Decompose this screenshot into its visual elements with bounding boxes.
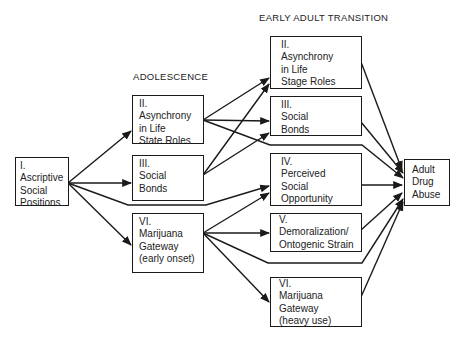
node-line: Ontogenic Strain (279, 239, 361, 251)
node-line: Drug (412, 176, 449, 188)
edge-ea-social-bonds-to-adult (361, 122, 403, 173)
edge-adol-asynchrony-to-ea-asynchrony (203, 78, 269, 120)
node-line: III. (139, 158, 203, 170)
node-ea-social-bonds: III. Social Bonds (270, 96, 362, 136)
node-ea-perceived-opportunity: IV. Perceived Social Opportunity (270, 153, 362, 206)
node-line: Bonds (139, 183, 203, 195)
node-line: I. (20, 160, 68, 172)
node-line: (early onset) (139, 253, 203, 265)
node-line: Gateway (139, 241, 203, 253)
node-ea-marijuana-gateway: VI. Marijuana Gateway (heavy use) (270, 277, 362, 327)
node-line: Social (139, 170, 203, 182)
edge-adol-marijuana-to-ea-perceived-opportunity (203, 193, 269, 233)
node-line: State Roles (139, 135, 203, 147)
node-line: III. (281, 99, 361, 111)
node-line: VI. (279, 278, 361, 290)
node-line: Asynchrony (139, 110, 203, 122)
edge-adol-asynchrony-to-ea-social-bonds (203, 120, 269, 121)
path-diagram: EARLY ADULT TRANSITION ADOLESCENCE I. As… (0, 0, 464, 341)
node-line: in Life (139, 123, 203, 135)
node-line: (heavy use) (279, 315, 361, 327)
node-line: Abuse (412, 189, 449, 201)
stage-label-adolescence: ADOLESCENCE (133, 71, 208, 82)
node-adol-social-bonds: III. Social Bonds (132, 155, 204, 201)
edge-adol-marijuana-to-ea-marijuana (203, 233, 269, 302)
edge-ascriptive-to-adol-asynchrony (68, 131, 131, 183)
node-line: Social (281, 111, 361, 123)
node-line: Marijuana (279, 290, 361, 302)
edge-ascriptive-to-adol-marijuana (68, 183, 131, 245)
node-ea-asynchrony: II. Asynchrony in Life Stage Roles (270, 36, 362, 89)
node-line: Stage Roles (281, 76, 361, 88)
edge-ea-demoralization-to-adult (361, 193, 402, 230)
node-line: Opportunity (281, 193, 361, 205)
node-line: II. (139, 98, 203, 110)
node-line: Demoralization/ (279, 226, 361, 238)
edges-layer (0, 0, 464, 341)
node-line: Adult (412, 164, 449, 176)
node-line: Gateway (279, 303, 361, 315)
node-line: Bonds (281, 124, 361, 136)
edge-ea-marijuana-to-adult (361, 202, 403, 297)
node-line: Marijuana (139, 228, 203, 240)
node-line: in Life (281, 64, 361, 76)
node-line: Perceived (281, 168, 361, 180)
node-line: Social (20, 185, 68, 197)
edge-adol-social-bonds-to-ea-asynchrony (203, 84, 269, 175)
node-ascriptive-social-positions: I. Ascriptive Social Positions (15, 157, 69, 206)
node-line: V. (279, 214, 361, 226)
edge-adol-social-bonds-to-ea-social-bonds (203, 133, 269, 175)
node-line: VI. (139, 216, 203, 228)
node-line: Asynchrony (281, 51, 361, 63)
node-line: Ascriptive (20, 172, 68, 184)
edge-ea-asynchrony-to-adult (361, 62, 402, 170)
node-line: Social (281, 181, 361, 193)
node-line: IV. (281, 156, 361, 168)
node-line: II. (281, 39, 361, 51)
stage-label-early-adult: EARLY ADULT TRANSITION (259, 12, 388, 23)
node-line: Positions (20, 197, 68, 209)
node-ea-demoralization: V. Demoralization/ Ontogenic Strain (270, 213, 362, 252)
node-adol-asynchrony: II. Asynchrony in Life State Roles (132, 95, 204, 144)
node-adol-marijuana-gateway: VI. Marijuana Gateway (early onset) (132, 213, 204, 273)
node-adult-drug-abuse: Adult Drug Abuse (404, 159, 450, 206)
